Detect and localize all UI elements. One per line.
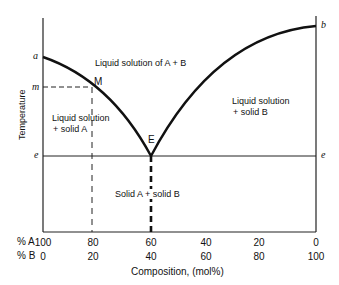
tick-b-0: 0 xyxy=(40,251,46,262)
region-liquid-solid-a-line1: Liquid solution xyxy=(52,113,110,123)
tick-b-1: 20 xyxy=(87,251,98,262)
liquidus-curve-a xyxy=(43,57,151,156)
point-e-left-label: e xyxy=(34,150,38,160)
point-e-right-label: e xyxy=(321,150,325,160)
point-E-label: E xyxy=(148,135,155,145)
percent-a-row-label: % A xyxy=(17,237,35,247)
point-b-label: b xyxy=(321,20,326,30)
region-liquid-solid-a-line2: + solid A xyxy=(53,124,87,134)
liquidus-curve-b xyxy=(151,26,316,156)
tick-b-5: 100 xyxy=(308,251,325,262)
tick-b-2: 40 xyxy=(145,251,156,262)
region-liquid-label: Liquid solution of A + B xyxy=(95,58,186,68)
tick-a-1: 80 xyxy=(87,237,98,248)
region-liquid-solid-b-line2: + solid B xyxy=(233,107,268,117)
x-axis-label: Composition, (mol%) xyxy=(131,267,224,277)
tick-a-3: 40 xyxy=(200,237,211,248)
region-liquid-solid-b-line1: Liquid solution xyxy=(232,96,290,106)
region-solid-label: Solid A + solid B xyxy=(114,189,181,199)
tick-b-3: 60 xyxy=(200,251,211,262)
tick-b-4: 80 xyxy=(253,251,264,262)
point-a-label: a xyxy=(33,51,38,61)
y-axis-label: Temperature xyxy=(17,89,27,140)
tick-a-0: 100 xyxy=(35,237,52,248)
tick-a-4: 20 xyxy=(253,237,264,248)
point-M-label: M xyxy=(94,77,102,87)
percent-b-row-label: % B xyxy=(17,251,35,261)
tick-a-2: 60 xyxy=(145,237,156,248)
point-m-label: m xyxy=(32,82,39,92)
tick-a-5: 0 xyxy=(313,237,319,248)
